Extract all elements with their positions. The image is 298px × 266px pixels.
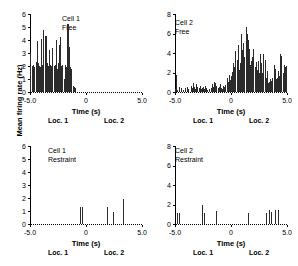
x-tick-mark [142, 93, 143, 95]
histogram-bar [209, 89, 210, 92]
histogram-bar [216, 211, 217, 224]
x-tick-label: 0 [73, 229, 99, 236]
location-annotation: Loc. 1 [187, 117, 219, 124]
histogram-bar [179, 213, 180, 224]
y-tick-label: 3 [12, 182, 26, 189]
x-tick-label: 5.0 [274, 229, 298, 236]
y-tick-label: 0 [12, 221, 26, 228]
histogram-bar [177, 213, 178, 224]
y-tick-label: 8 [157, 143, 171, 150]
y-tick-label: 1 [12, 208, 26, 215]
x-axis-title: Time (s) [175, 107, 287, 116]
histogram-bar [266, 213, 267, 224]
panel-cell2-free: Cell 2Free02468-5.005.0Time (s)Loc. 1Loc… [149, 2, 298, 134]
histogram-bar [113, 212, 114, 224]
x-axis-title: Time (s) [175, 239, 287, 248]
histogram-bar [123, 199, 124, 224]
histogram-bars [175, 146, 287, 224]
histogram-bar [183, 90, 184, 92]
x-axis-title: Time (s) [30, 239, 142, 248]
y-tick-label: 4 [12, 37, 26, 44]
x-tick-label: 0 [218, 97, 244, 104]
x-tick-mark [175, 93, 176, 95]
x-tick-mark [86, 93, 87, 95]
x-tick-label: -5.0 [17, 229, 43, 236]
histogram-bar [204, 213, 205, 224]
location-annotation: Loc. 1 [42, 117, 74, 124]
y-tick-label: 1 [12, 76, 26, 83]
histogram-bar [82, 207, 83, 224]
y-tick-label: 2 [12, 63, 26, 70]
histogram-bar [188, 89, 189, 92]
location-annotation: Loc. 2 [98, 249, 130, 256]
location-annotation: Loc. 2 [243, 249, 275, 256]
location-annotation: Loc. 1 [42, 249, 74, 256]
y-tick-label: 5 [12, 24, 26, 31]
location-annotation: Loc. 1 [187, 249, 219, 256]
histogram-bar [271, 212, 272, 224]
x-tick-mark [287, 225, 288, 227]
y-tick-label: 8 [157, 11, 171, 18]
histogram-bar [275, 210, 276, 224]
x-tick-mark [30, 225, 31, 227]
x-axis-title: Time (s) [30, 107, 142, 116]
y-tick-label: 4 [157, 50, 171, 57]
y-tick-label: 2 [157, 69, 171, 76]
y-tick-label: 2 [157, 201, 171, 208]
histogram-bar [278, 210, 279, 224]
x-tick-mark [142, 225, 143, 227]
x-tick-mark [30, 93, 31, 95]
y-tick-label: 4 [12, 169, 26, 176]
y-tick-label: 2 [12, 195, 26, 202]
location-annotation: Loc. 2 [98, 117, 130, 124]
x-tick-label: -5.0 [162, 97, 188, 104]
histogram-bar [202, 205, 203, 225]
y-tick-label: 4 [157, 182, 171, 189]
x-tick-label: 0 [73, 97, 99, 104]
panel-cell2-restraint: Cell 2Restraint02468-5.005.0Time (s)Loc.… [149, 134, 298, 266]
y-tick-label: 0 [157, 221, 171, 228]
histogram-bar [107, 207, 108, 224]
y-tick-label: 0 [12, 89, 26, 96]
histogram-bar [75, 88, 76, 92]
y-tick-label: 5 [12, 156, 26, 163]
figure-panel-grid: Mean firing rate (Hz) Cell 1Free0123456-… [0, 0, 298, 266]
histogram-bar [177, 90, 178, 92]
histogram-bars [30, 146, 142, 224]
histogram-bar [30, 53, 31, 92]
histogram-bar [185, 88, 186, 92]
x-tick-mark [86, 225, 87, 227]
histogram-bar [248, 213, 249, 224]
x-tick-label: -5.0 [17, 97, 43, 104]
histogram-bar [269, 210, 270, 224]
y-tick-label: 0 [157, 89, 171, 96]
x-tick-mark [175, 225, 176, 227]
histogram-bar [181, 88, 182, 92]
x-tick-mark [231, 93, 232, 95]
y-tick-label: 3 [12, 50, 26, 57]
location-annotation: Loc. 2 [243, 117, 275, 124]
y-tick-label: 6 [157, 30, 171, 37]
x-tick-label: 0 [218, 229, 244, 236]
x-tick-mark [287, 93, 288, 95]
x-tick-mark [231, 225, 232, 227]
y-tick-label: 6 [12, 143, 26, 150]
histogram-bars [175, 14, 287, 92]
x-tick-label: 5.0 [274, 97, 298, 104]
y-tick-label: 6 [12, 11, 26, 18]
y-tick-label: 6 [157, 162, 171, 169]
x-tick-label: -5.0 [162, 229, 188, 236]
histogram-bars [30, 14, 142, 92]
